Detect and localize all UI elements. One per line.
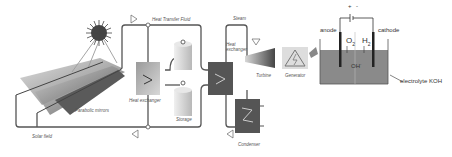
label-generator: Generator <box>285 73 305 78</box>
parabolic-mirrors <box>16 58 125 115</box>
flow-arrow-icon <box>227 130 233 138</box>
output-arrow-icon <box>309 47 318 58</box>
flow-arrow-icon <box>252 39 260 45</box>
label-heat-exchanger-1: Heat exchanger <box>129 98 161 103</box>
label-oxygen: O2 <box>346 36 355 47</box>
label-hydrogen: H2 <box>362 36 371 47</box>
label-solar-field: Solar field <box>32 134 52 139</box>
label-plus: + <box>348 3 352 9</box>
label-heat-exchanger-2: Heat exchanger <box>226 42 248 52</box>
label-parabolic-mirrors: Parabolic mirrors <box>75 108 109 113</box>
label-minus: - <box>356 3 358 9</box>
turbine <box>245 48 275 68</box>
storage-tanks <box>174 40 192 116</box>
flow-arrow-icon <box>131 15 137 23</box>
power-source-icon <box>340 14 373 32</box>
label-electrolyte: electrolyte KOH <box>400 78 442 84</box>
label-hydroxide: OH- <box>351 61 361 69</box>
flow-arrow-icon <box>132 130 138 138</box>
diagram-canvas <box>0 0 452 157</box>
label-storage: Storage <box>176 117 192 122</box>
label-heat-transfer-fluid: Heat Transfer Fluid <box>152 17 190 22</box>
label-condenser: Condenser <box>238 142 260 147</box>
heat-exchanger-1 <box>136 62 160 95</box>
heat-exchanger-2 <box>208 62 233 95</box>
cathode-electrode <box>372 32 375 67</box>
label-steam: Steam <box>233 16 246 21</box>
condenser <box>235 99 264 133</box>
generator <box>282 47 308 69</box>
anode-electrode <box>339 32 342 67</box>
label-cathode: cathode <box>378 27 399 33</box>
label-turbine: Turbine <box>256 73 271 78</box>
electrolyzer <box>320 14 403 84</box>
label-anode: anode <box>320 27 337 33</box>
